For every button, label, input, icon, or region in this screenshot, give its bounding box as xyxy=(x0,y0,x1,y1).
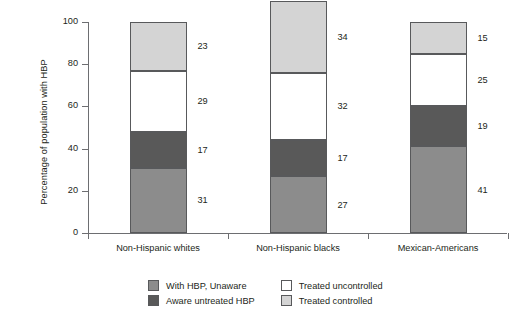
bar-segment-treated-uncontrolled xyxy=(130,71,187,132)
bar-non-hispanic-blacks: 27173234 xyxy=(270,22,327,233)
x-tick-1 xyxy=(228,233,229,239)
value-label: 34 xyxy=(338,32,348,42)
y-tick-20: 20 xyxy=(82,191,88,192)
bar-segment-aware-untreated-hbp xyxy=(410,106,467,146)
bar-segment-treated-controlled xyxy=(270,1,327,73)
y-tick-label-60: 60 xyxy=(68,100,78,110)
y-tick-label-80: 80 xyxy=(68,58,78,68)
value-label: 41 xyxy=(478,185,488,195)
x-tick-0 xyxy=(88,233,89,239)
y-tick-label-0: 0 xyxy=(73,227,78,237)
chart-legend: With HBP, UnawareTreated uncontrolledAwa… xyxy=(148,280,383,306)
bar-segment-aware-untreated-hbp xyxy=(270,140,327,176)
bar-non-hispanic-whites: 31172923 xyxy=(130,22,187,233)
y-tick-60: 60 xyxy=(82,106,88,107)
legend-item-with-hbp-unaware: With HBP, Unaware xyxy=(148,280,255,291)
stacked-bar-chart-figure: Percentage of population with HBP 020406… xyxy=(0,0,527,326)
value-label: 27 xyxy=(338,200,348,210)
bar-segment-treated-controlled xyxy=(410,22,467,54)
y-tick-100: 100 xyxy=(82,22,88,23)
value-label: 25 xyxy=(478,75,488,85)
y-tick-40: 40 xyxy=(82,149,88,150)
category-label-non-hispanic-whites: Non-Hispanic whites xyxy=(116,243,200,253)
bar-segment-treated-uncontrolled xyxy=(410,54,467,107)
category-label-mexican-americans: Mexican-Americans xyxy=(398,243,479,253)
legend-item-aware-untreated-hbp: Aware untreated HBP xyxy=(148,295,255,306)
x-tick-3 xyxy=(508,233,509,239)
value-label: 17 xyxy=(338,153,348,163)
legend-item-treated-controlled: Treated controlled xyxy=(281,295,383,306)
value-label: 17 xyxy=(198,145,208,155)
y-tick-label-40: 40 xyxy=(68,143,78,153)
legend-label: Treated controlled xyxy=(299,296,373,306)
category-label-non-hispanic-blacks: Non-Hispanic blacks xyxy=(256,243,340,253)
y-tick-label-100: 100 xyxy=(63,16,78,26)
value-label: 15 xyxy=(478,33,488,43)
value-label: 31 xyxy=(198,195,208,205)
bar-mexican-americans: 41192515 xyxy=(410,22,467,233)
x-tick-2 xyxy=(368,233,369,239)
bar-segment-treated-controlled xyxy=(130,22,187,71)
bar-segment-with-hbp-unaware xyxy=(130,168,187,233)
legend-item-treated-uncontrolled: Treated uncontrolled xyxy=(281,280,383,291)
value-label: 19 xyxy=(478,121,488,131)
y-tick-label-20: 20 xyxy=(68,185,78,195)
y-axis-line xyxy=(88,22,89,233)
legend-swatch xyxy=(148,295,159,306)
y-tick-80: 80 xyxy=(82,64,88,65)
value-label: 29 xyxy=(198,96,208,106)
legend-label: Treated uncontrolled xyxy=(299,281,383,291)
legend-swatch xyxy=(281,295,292,306)
value-label: 23 xyxy=(198,41,208,51)
bar-segment-with-hbp-unaware xyxy=(270,176,327,233)
bar-segment-treated-uncontrolled xyxy=(270,73,327,141)
value-label: 32 xyxy=(338,101,348,111)
legend-label: Aware untreated HBP xyxy=(166,296,255,306)
bar-segment-aware-untreated-hbp xyxy=(130,132,187,168)
plot-area: 020406080100 311729232717323441192515 No… xyxy=(88,22,508,233)
bar-segment-with-hbp-unaware xyxy=(410,146,467,233)
y-axis-title: Percentage of population with HBP xyxy=(39,22,49,242)
legend-swatch xyxy=(148,280,159,291)
legend-swatch xyxy=(281,280,292,291)
legend-label: With HBP, Unaware xyxy=(166,281,247,291)
x-axis-line xyxy=(88,233,507,234)
